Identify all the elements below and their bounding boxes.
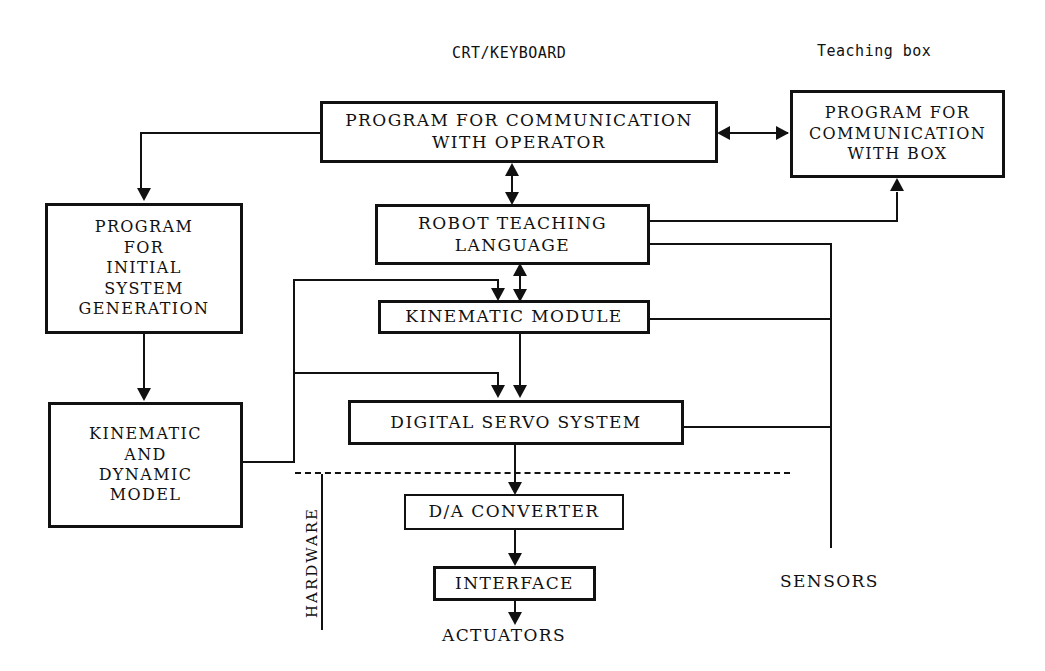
box-kinematic-module[interactable]: KINEMATIC MODULE <box>378 300 650 334</box>
arrowhead-into-model <box>137 388 151 401</box>
box-robot-teaching-language[interactable]: ROBOT TEACHING LANGUAGE <box>375 204 650 265</box>
connector-rtl-to-sensor-bus <box>650 243 832 245</box>
box-interface[interactable]: INTERFACE <box>433 566 596 601</box>
connector-digital-servo-to-sensor-bus <box>684 426 832 428</box>
hardware-label: HARDWARE <box>303 507 321 618</box>
arrowhead-into-kinematic-module-left <box>491 288 505 301</box>
sensors-label: SENSORS <box>780 571 879 591</box>
arrowhead-into-digital-servo-left <box>491 385 505 398</box>
arrowhead-into-operator-from-rtl <box>505 163 519 176</box>
connector-operator-to-sysgen-horizontal <box>140 132 321 134</box>
arrowhead-into-da-converter <box>508 482 522 495</box>
box-digital-servo-system[interactable]: DIGITAL SERVO SYSTEM <box>348 400 684 445</box>
box-program-communication-box[interactable]: PROGRAM FOR COMMUNICATION WITH BOX <box>790 90 1005 178</box>
arrowhead-into-communication-box-bottom <box>890 178 904 191</box>
hardware-bracket-line <box>321 474 323 630</box>
teaching-box-label: Teaching box <box>817 42 931 60</box>
box-kinematic-and-dynamic-model[interactable]: KINEMATIC AND DYNAMIC MODEL <box>48 402 243 528</box>
connector-sysgen-to-model <box>143 334 145 389</box>
arrowhead-into-kinematic-module-from-rtl <box>513 289 527 302</box>
connector-kinematic-module-to-servo <box>519 334 521 390</box>
arrowhead-into-rtl-from-operator <box>505 192 519 205</box>
connector-kinematic-module-to-sensor-bus <box>650 318 832 320</box>
box-da-converter[interactable]: D/A CONVERTER <box>404 494 624 530</box>
connector-rtl-to-teachbox-horizontal <box>650 220 898 222</box>
connector-left-bus-to-servo-horizontal <box>293 372 499 374</box>
actuators-label: ACTUATORS <box>442 625 566 645</box>
box-program-initial-system-generation[interactable]: PROGRAM FOR INITIAL SYSTEM GENERATION <box>45 203 243 334</box>
connector-left-bus-to-kinematic-module-horizontal <box>293 279 499 281</box>
arrowhead-into-operator-box <box>717 126 730 140</box>
arrowhead-into-rtl-from-kinematic-module <box>513 263 527 276</box>
hardware-software-divider <box>295 472 790 474</box>
connector-operator-to-sysgen-vertical <box>140 132 142 190</box>
arrowhead-into-actuators <box>508 612 522 625</box>
connector-rtl-to-teachbox-vertical <box>896 192 898 222</box>
block-diagram-canvas: CRT/KEYBOARD Teaching box PROGRAM FOR CO… <box>0 0 1045 671</box>
crt-keyboard-label: CRT/KEYBOARD <box>452 44 566 62</box>
connector-model-to-left-bus <box>243 461 295 463</box>
left-feedback-bus-vertical <box>293 279 295 463</box>
sensor-bus-vertical-line <box>830 243 832 548</box>
arrowhead-into-digital-servo-center <box>513 385 527 398</box>
arrowhead-into-interface <box>508 553 522 566</box>
arrowhead-into-sysgen <box>137 188 151 201</box>
box-program-communication-operator[interactable]: PROGRAM FOR COMMUNICATION WITH OPERATOR <box>320 101 718 163</box>
connector-servo-to-da-converter <box>514 445 516 487</box>
arrowhead-into-communication-box <box>776 126 789 140</box>
